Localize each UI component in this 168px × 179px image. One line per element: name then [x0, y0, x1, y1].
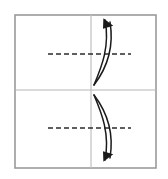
- fold-diagram-svg: [0, 0, 168, 179]
- fold-diagram-container: [0, 0, 168, 179]
